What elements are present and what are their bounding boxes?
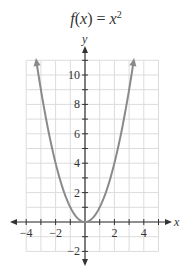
x-axis-right-arrow-icon: [165, 219, 172, 225]
curve-arrow-icon: [129, 58, 136, 66]
x-tick-label: −4: [20, 226, 33, 240]
y-tick-label: −2: [67, 244, 80, 258]
x-axis-label: x: [173, 215, 180, 229]
parabola-chart: xy −4−224108642−2: [0, 0, 192, 272]
x-tick-label: 4: [141, 226, 147, 240]
y-axis-label: y: [81, 32, 88, 46]
y-axis-down-arrow-icon: [82, 259, 88, 266]
y-tick-label: 8: [74, 97, 80, 111]
grid-lines: [26, 60, 158, 251]
y-tick-label: 2: [74, 186, 80, 200]
y-tick-label: 6: [74, 127, 80, 141]
y-axis-up-arrow-icon: [82, 46, 88, 53]
x-axis-left-arrow-icon: [10, 219, 17, 225]
y-tick-label: 4: [74, 156, 80, 170]
y-tick-label: 10: [68, 68, 80, 82]
x-tick-label: −2: [49, 226, 62, 240]
x-tick-label: 2: [111, 226, 117, 240]
curve-arrow-icon: [34, 58, 41, 66]
